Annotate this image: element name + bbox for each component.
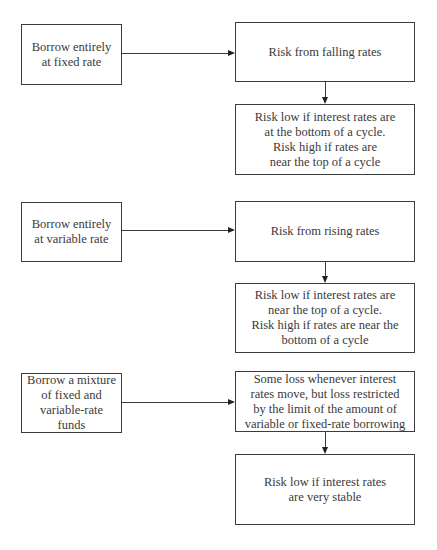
risk-box-rising-rates: Risk from rising rates (235, 201, 415, 262)
risk-label: Risk from rising rates (271, 224, 380, 239)
risk-label: Some loss whenever interest rates move, … (245, 372, 406, 432)
strategy-box-fixed: Borrow entirely at fixed rate (21, 24, 122, 85)
outcome-label: Risk low if interest rates are at the bo… (255, 110, 396, 170)
connector-down (325, 262, 326, 276)
outcome-box-fixed: Risk low if interest rates are at the bo… (235, 104, 415, 175)
risk-box-falling-rates: Risk from falling rates (235, 22, 415, 82)
strategy-label: Borrow a mixture of fixed and variable-r… (25, 373, 118, 433)
strategy-box-mixture: Borrow a mixture of fixed and variable-r… (21, 373, 122, 433)
arrow-down-icon (322, 97, 328, 104)
strategy-label: Borrow entirely at fixed rate (32, 40, 112, 70)
risk-label: Risk from falling rates (269, 45, 382, 60)
arrow-right-icon (228, 227, 235, 233)
arrow-right-icon (228, 399, 235, 405)
arrow-right-icon (228, 50, 235, 56)
connector-down (325, 432, 326, 447)
strategy-label: Borrow entirely at variable rate (32, 217, 112, 247)
connector-right (122, 53, 228, 54)
outcome-label: Risk low if interest rates are very stab… (264, 475, 386, 505)
outcome-box-variable: Risk low if interest rates are near the … (235, 283, 415, 353)
risk-box-some-loss: Some loss whenever interest rates move, … (235, 371, 415, 432)
strategy-box-variable: Borrow entirely at variable rate (21, 202, 122, 262)
outcome-label: Risk low if interest rates are near the … (251, 288, 398, 348)
arrow-down-icon (322, 276, 328, 283)
outcome-box-mixture: Risk low if interest rates are very stab… (235, 454, 415, 525)
arrow-down-icon (322, 447, 328, 454)
connector-down (325, 82, 326, 97)
connector-right (122, 402, 228, 403)
connector-right (122, 230, 228, 231)
